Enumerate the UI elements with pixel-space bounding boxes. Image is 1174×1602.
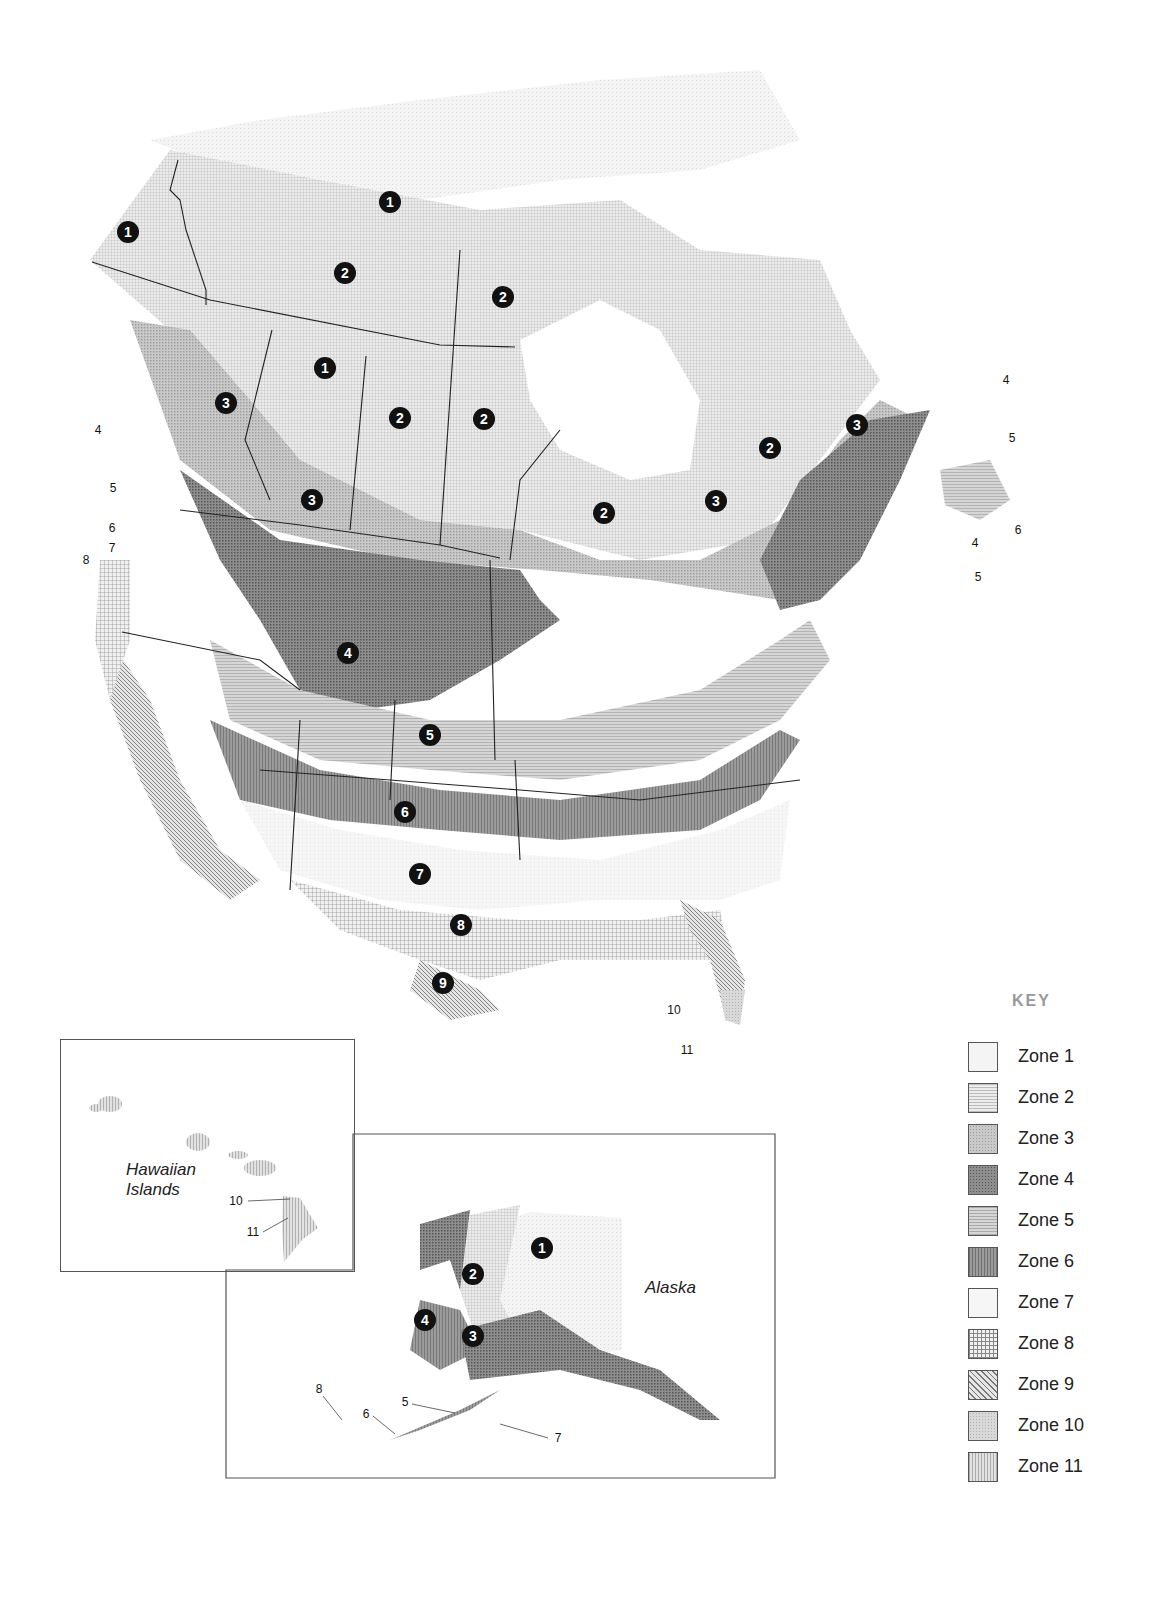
legend-item: Zone 9	[968, 1364, 1128, 1405]
zone-callout-label: 5	[402, 1395, 409, 1409]
hawaii-title: Hawaiian Islands	[126, 1160, 196, 1200]
zone-marker: 2	[462, 1263, 484, 1285]
zone-marker: 3	[301, 489, 323, 511]
zone-callout-label: 6	[1015, 523, 1022, 537]
legend-swatch	[968, 1329, 998, 1359]
zone-marker: 2	[759, 437, 781, 459]
legend-swatch	[968, 1165, 998, 1195]
legend-item: Zone 3	[968, 1118, 1128, 1159]
legend-label: Zone 3	[1018, 1128, 1074, 1149]
zone-callout-label: 10	[667, 1003, 680, 1017]
legend-label: Zone 6	[1018, 1251, 1074, 1272]
legend-label: Zone 4	[1018, 1169, 1074, 1190]
legend-label: Zone 5	[1018, 1210, 1074, 1231]
legend-label: Zone 7	[1018, 1292, 1074, 1313]
legend-swatch	[968, 1042, 998, 1072]
legend-swatch	[968, 1206, 998, 1236]
zone-marker: 2	[593, 502, 615, 524]
zone-callout-label: 7	[109, 541, 116, 555]
zone-callout-label: 6	[363, 1407, 370, 1421]
legend-item: Zone 4	[968, 1159, 1128, 1200]
legend-title: KEY	[1012, 992, 1128, 1010]
legend-item: Zone 8	[968, 1323, 1128, 1364]
legend-label: Zone 2	[1018, 1087, 1074, 1108]
legend-item: Zone 2	[968, 1077, 1128, 1118]
legend-swatch	[968, 1124, 998, 1154]
zone-marker: 2	[334, 262, 356, 284]
legend-item: Zone 1	[968, 1036, 1128, 1077]
zone-marker: 3	[705, 490, 727, 512]
zone-marker: 1	[379, 191, 401, 213]
legend-swatch	[968, 1452, 998, 1482]
legend-label: Zone 11	[1018, 1456, 1083, 1477]
zone-marker: 2	[492, 286, 514, 308]
legend-label: Zone 10	[1018, 1415, 1084, 1436]
legend-swatch	[968, 1247, 998, 1277]
legend-label: Zone 9	[1018, 1374, 1074, 1395]
legend-label: Zone 1	[1018, 1046, 1074, 1067]
zone-marker: 7	[409, 863, 431, 885]
zone-callout-label: 4	[1003, 373, 1010, 387]
zone-marker: 1	[117, 221, 139, 243]
legend-item: Zone 7	[968, 1282, 1128, 1323]
legend-swatch	[968, 1411, 998, 1441]
zone-callout-label: 8	[316, 1382, 323, 1396]
legend: KEY Zone 1Zone 2Zone 3Zone 4Zone 5Zone 6…	[968, 992, 1128, 1487]
zone-marker: 5	[419, 724, 441, 746]
zone-callout-label: 5	[110, 481, 117, 495]
zone-marker: 8	[450, 914, 472, 936]
zone-marker: 9	[432, 972, 454, 994]
zone-marker: 4	[337, 642, 359, 664]
zone-marker: 2	[389, 407, 411, 429]
zone-marker: 3	[215, 392, 237, 414]
legend-label: Zone 8	[1018, 1333, 1074, 1354]
zone-marker: 4	[414, 1309, 436, 1331]
zone-marker: 1	[314, 357, 336, 379]
legend-item: Zone 11	[968, 1446, 1128, 1487]
zone-callout-label: 10	[229, 1194, 242, 1208]
zone-marker: 3	[462, 1325, 484, 1347]
zone-callout-label: 11	[247, 1225, 259, 1239]
zone-marker: 6	[394, 801, 416, 823]
hawaii-inset	[60, 1039, 355, 1272]
legend-swatch	[968, 1083, 998, 1113]
legend-item: Zone 10	[968, 1405, 1128, 1446]
legend-item: Zone 5	[968, 1200, 1128, 1241]
zone-marker: 1	[531, 1237, 553, 1259]
zone-callout-label: 7	[555, 1431, 562, 1445]
zone-callout-label: 8	[83, 553, 90, 567]
zone-callout-label: 6	[109, 521, 116, 535]
legend-item: Zone 6	[968, 1241, 1128, 1282]
zone-callout-label: 4	[95, 423, 102, 437]
zone-callout-label: 5	[975, 570, 982, 584]
legend-swatch	[968, 1288, 998, 1318]
zone-marker: 3	[846, 414, 868, 436]
zone-marker: 2	[473, 408, 495, 430]
zone-callout-label: 11	[681, 1043, 693, 1057]
alaska-title: Alaska	[645, 1278, 696, 1298]
legend-swatch	[968, 1370, 998, 1400]
zone-callout-label: 4	[972, 536, 979, 550]
zone-callout-label: 5	[1009, 431, 1016, 445]
